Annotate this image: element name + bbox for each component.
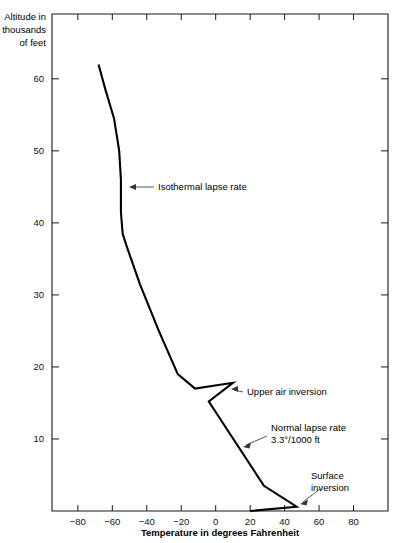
- annotation-label: Surface: [311, 470, 344, 481]
- annotation-label: 3.3°/1000 ft: [271, 434, 320, 445]
- y-tick-label: 10: [33, 433, 44, 444]
- x-tick-label: 80: [348, 516, 359, 527]
- y-axis-title-line: of feet: [20, 37, 47, 48]
- annotation-isothermal: Isothermal lapse rate: [129, 181, 247, 192]
- chart-annotations: Isothermal lapse rateUpper air inversion…: [129, 181, 349, 506]
- annotation-label: inversion: [311, 482, 349, 493]
- y-tick-label: 50: [33, 145, 44, 156]
- x-tick-label: 60: [314, 516, 325, 527]
- y-tick-label: 60: [33, 73, 44, 84]
- series-group: [99, 64, 297, 511]
- y-axis-title-line: Altitude in: [4, 11, 46, 22]
- y-tick-label: 30: [33, 289, 44, 300]
- chart-canvas: −80−60−40−20020406080 102030405060 Altit…: [0, 0, 398, 543]
- annotation-label: Normal lapse rate: [271, 422, 346, 433]
- y-tick-label: 40: [33, 217, 44, 228]
- x-tick-label: −20: [173, 516, 189, 527]
- annotation-label: Isothermal lapse rate: [158, 181, 247, 192]
- x-tick-label: 40: [279, 516, 290, 527]
- x-tick-label: −80: [70, 516, 86, 527]
- x-axis-tick-labels: −80−60−40−20020406080: [70, 516, 359, 527]
- y-axis-title-line: thousands: [2, 24, 46, 35]
- annotation-arrow-icon: [129, 184, 136, 190]
- annotation-arrow-icon: [243, 443, 251, 449]
- x-tick-label: 0: [213, 516, 218, 527]
- x-tick-label: 20: [245, 516, 256, 527]
- y-tick-label: 20: [33, 361, 44, 372]
- x-tick-label: −60: [104, 516, 120, 527]
- temperature-altitude-chart: −80−60−40−20020406080 102030405060 Altit…: [0, 0, 398, 543]
- x-axis-title: Temperature in degrees Fahrenheit: [141, 527, 300, 538]
- annotation-arrow-icon: [231, 386, 238, 392]
- annotation-surface-inversion: Surfaceinversion: [300, 470, 349, 506]
- y-axis-title: Altitude inthousandsof feet: [2, 11, 46, 48]
- annotation-normal-lapse-rate: Normal lapse rate3.3°/1000 ft: [243, 422, 346, 449]
- plot-frame: [52, 14, 388, 511]
- annotation-upper-air-inversion: Upper air inversion: [231, 386, 327, 397]
- annotation-label: Upper air inversion: [247, 386, 327, 397]
- annotation-arrow-icon: [300, 500, 308, 506]
- y-axis-tick-labels: 102030405060: [33, 73, 44, 444]
- x-tick-label: −40: [139, 516, 155, 527]
